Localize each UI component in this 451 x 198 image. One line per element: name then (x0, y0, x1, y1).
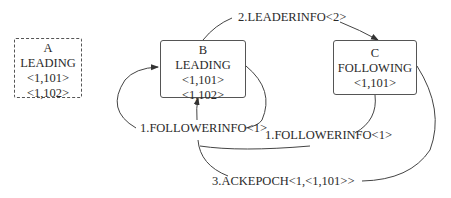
node-c-name: C (334, 46, 416, 61)
edge-ackepoch-left (198, 140, 228, 176)
edge-leaderinfo-left (203, 18, 232, 40)
node-b-vote-1: <1,101> (161, 73, 245, 88)
edge-followerinfo-loop-left (117, 67, 158, 128)
node-c: C FOLLOWING <1,101> (333, 40, 417, 95)
edge-label-followerinfo-b: 1.FOLLOWERINFO<1> (140, 121, 267, 136)
edge-followerinfo-loop-right (246, 66, 266, 128)
node-a: A LEADING <1,101> <1,102> (14, 38, 82, 98)
node-b-name: B (161, 43, 245, 58)
node-a-state: LEADING (15, 56, 81, 71)
node-b: B LEADING <1,101> <1,102> (160, 40, 246, 98)
edge-label-ackepoch: 3.ACKEPOCH<1,<1,101>> (212, 174, 354, 189)
edge-label-followerinfo-c: 1.FOLLOWERINFO<1> (265, 128, 392, 143)
node-a-name: A (15, 41, 81, 56)
node-c-vote-1: <1,101> (334, 76, 416, 91)
node-b-vote-2: <1,102> (161, 88, 245, 103)
edge-label-leaderinfo: 2.LEADERINFO<2> (238, 10, 346, 25)
node-b-state: LEADING (161, 58, 245, 73)
node-a-vote-1: <1,101> (15, 71, 81, 86)
edge-followerinfo2-to-b (200, 146, 310, 149)
node-c-state: FOLLOWING (334, 61, 416, 76)
node-a-vote-2: <1,102> (15, 86, 81, 101)
